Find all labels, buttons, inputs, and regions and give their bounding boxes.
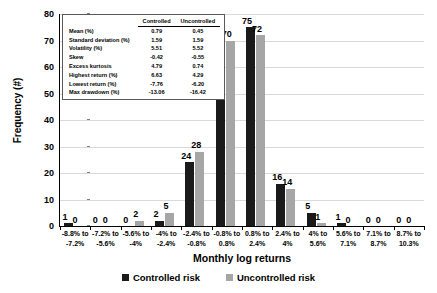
x-tick-label-line: -5.6% to [121,229,151,239]
y-tick-0: 0 [30,221,54,231]
bar-value-label: 0 [367,215,389,225]
x-tick-label: -5.6% to-4% [121,229,151,248]
y-tick-70: 70 [30,36,54,46]
table-cell-controlled: -7.76 [138,79,176,88]
legend-label: Controlled risk [133,272,200,283]
table-header-controlled: Controlled [138,17,176,26]
table-row-label: Highest return (%) [67,70,138,79]
x-tick-label-line: -2.4% to [181,229,211,239]
x-tick-label-line: -0.8% [181,239,211,249]
y-tick-60: 60 [30,62,54,72]
x-tick-label-line: -7.2% [60,239,90,249]
bar-value-label: 5 [155,201,177,211]
bar-group[interactable]: 00 [394,14,424,226]
table-row: Excess kurtosis4.790.74 [67,62,220,71]
table-header-row: Controlled Uncontrolled [67,17,220,26]
histogram-chart: Frequency (#) 01020304050607080 10000225… [0,0,437,293]
table-row-label: Standard deviation (%) [67,35,138,44]
y-tick-20: 20 [30,168,54,178]
bar-group[interactable]: 00 [363,14,393,226]
bar-uncontrolled[interactable] [195,152,204,226]
bar-controlled[interactable] [185,162,194,226]
statistics-table-grid: Controlled Uncontrolled Mean (%)0.790.45… [67,17,220,96]
table-row: Skew-0.42-0.55 [67,53,220,62]
table-cell-uncontrolled: -6.20 [176,79,221,88]
bar-value-label: 5 [297,201,319,211]
table-row: Lowest return (%)-7.76-6.20 [67,79,220,88]
x-tick-label-line: 5.6% [303,239,333,249]
x-tick-label-line: -8.8% to [60,229,90,239]
x-tick-label-line: 7.1% [333,239,363,249]
bar-value-label: 1 [307,212,329,222]
table-cell-controlled: 0.79 [138,26,176,35]
bar-value-label: 28 [185,140,207,150]
table-row: Max drawdown (%)-13.06-16.42 [67,88,220,96]
bar-uncontrolled[interactable] [256,35,265,226]
x-axis-title: Monthly log returns [60,252,424,264]
table-row-label: Volatility (%) [67,44,138,53]
bar-value-label: 14 [276,177,298,187]
x-tick-label: -0.8% to0.8% [212,229,242,248]
table-row-label: Mean (%) [67,26,138,35]
legend-swatch-icon [122,274,129,281]
bar-controlled[interactable] [246,27,255,226]
table-cell-controlled: 6.63 [138,70,176,79]
bar-value-label: 0 [64,215,86,225]
bar-group[interactable]: 1614 [272,14,302,226]
table-cell-uncontrolled: 4.29 [176,70,221,79]
table-row: Highest return (%)6.634.29 [67,70,220,79]
table-cell-uncontrolled: 0.74 [176,62,221,71]
x-tick-label-line: 8.7% [363,239,393,249]
x-tick-label-line: 0.8% to [242,229,272,239]
table-cell-uncontrolled: -16.42 [176,88,221,96]
statistics-table-body: Mean (%)0.790.45Standard deviation (%)1.… [67,26,220,96]
table-header-blank [67,17,138,26]
x-tick-label-line: -7.2% to [90,229,120,239]
statistics-table-head: Controlled Uncontrolled [67,17,220,26]
y-tick-10: 10 [30,195,54,205]
x-tick-label: 8.7% to10.3% [394,229,424,248]
bar-group[interactable]: 51 [303,14,333,226]
table-cell-controlled: 1.59 [138,35,176,44]
x-tick-label-line: 2.4% [242,239,272,249]
bar-value-label: 0 [398,215,420,225]
bar-group[interactable]: 7572 [242,14,272,226]
x-tick-label: 0.8% to2.4% [242,229,272,248]
bar-uncontrolled[interactable] [135,221,144,226]
x-tick-label-line: -5.6% [90,239,120,249]
bar-controlled[interactable] [155,221,164,226]
table-row: Standard deviation (%)1.591.59 [67,35,220,44]
bar-uncontrolled[interactable] [226,41,235,227]
bar-uncontrolled[interactable] [317,223,326,226]
x-tick-label-line: 10.3% [394,239,424,249]
x-tick-mark [424,226,425,230]
table-row-label: Excess kurtosis [67,62,138,71]
x-tick-label-line: 5.6% to [333,229,363,239]
table-cell-uncontrolled: -0.55 [176,53,221,62]
bar-group[interactable]: 10 [333,14,363,226]
bar-uncontrolled[interactable] [286,189,295,226]
bar-uncontrolled[interactable] [165,213,174,226]
x-tick-label: 7.1% to8.7% [363,229,393,248]
table-cell-controlled: 5.51 [138,44,176,53]
table-row: Volatility (%)5.515.52 [67,44,220,53]
table-cell-controlled: 4.79 [138,62,176,71]
bar-controlled[interactable] [276,184,285,226]
bar-value-label: 0 [337,215,359,225]
table-cell-controlled: -0.42 [138,53,176,62]
x-tick-label: 5.6% to7.1% [333,229,363,248]
x-tick-label: -7.2% to-5.6% [90,229,120,248]
table-row-label: Max drawdown (%) [67,88,138,96]
legend-swatch-icon [226,274,233,281]
legend-item[interactable]: Controlled risk [122,272,200,283]
legend-item[interactable]: Uncontrolled risk [226,272,315,283]
y-tick-40: 40 [30,115,54,125]
table-cell-controlled: -13.06 [138,88,176,96]
y-tick-50: 50 [30,89,54,99]
y-tick-30: 30 [30,142,54,152]
x-tick-label-line: -4% [121,239,151,249]
x-tick-label-line: 2.4% to [272,229,302,239]
table-cell-uncontrolled: 0.45 [176,26,221,35]
bar-value-label: 24 [175,151,197,161]
x-tick-label-line: -4% to [151,229,181,239]
